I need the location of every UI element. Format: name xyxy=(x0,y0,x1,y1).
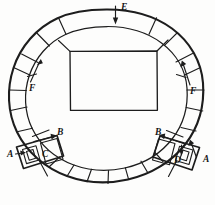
label-a-right: A xyxy=(202,154,209,164)
label-c-left: C xyxy=(42,149,49,159)
label-b-right: B xyxy=(154,127,161,137)
central-court-rectangle xyxy=(59,40,169,110)
annular-plan-drawing: E F F B B A A C D xyxy=(0,0,215,205)
callout-a-right xyxy=(188,140,196,158)
figure-canvas: E F F B B A A C D xyxy=(0,0,215,205)
callout-f-right xyxy=(177,61,191,86)
label-b-left: B xyxy=(56,127,63,137)
label-e-top: E xyxy=(120,2,127,12)
label-d-right: D xyxy=(173,155,181,165)
inner-ring-arc xyxy=(26,27,188,171)
label-f-right: F xyxy=(189,86,197,96)
label-a-left: A xyxy=(6,149,13,159)
left-inner-box xyxy=(23,146,41,164)
label-f-left: F xyxy=(28,83,36,93)
